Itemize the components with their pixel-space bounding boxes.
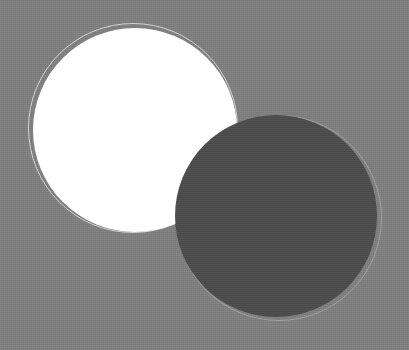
background-canvas — [0, 0, 409, 350]
dark-circle — [175, 115, 377, 317]
